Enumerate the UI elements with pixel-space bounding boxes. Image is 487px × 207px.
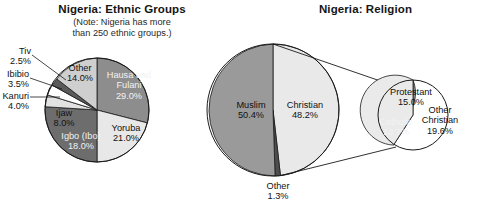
pie-label-christian: Christian 48.2% [277, 100, 333, 121]
pie-label-muslim-line-1: Muslim [225, 100, 277, 110]
pie-label-igbo-ibo-value: 18.0% [53, 141, 109, 151]
pie-callout-tiv-value: 2.5% [0, 56, 31, 66]
religion-chart: Nigeria: Religion M [244, 0, 487, 207]
pie-callout-kanuri: Kanuri 4.0% [0, 91, 29, 112]
pie-label-other-religion-outside: Other 1.3% [254, 181, 302, 202]
pie-label-other: Other 14.0% [58, 63, 102, 84]
pie-label-igbo-ibo-line-1: Igbo (Ibo) [53, 131, 109, 141]
detail-label-catholic: Catholic 13.7% [372, 117, 420, 138]
pie-label-other-religion-line-1: Other [254, 181, 302, 191]
pie-label-christian-line-1: Christian [277, 100, 333, 110]
detail-label-catholic-line-1: Catholic [372, 117, 420, 127]
pie-callout-tiv-line-1: Tiv [0, 46, 31, 56]
pie-label-ijaw-value: 8.0% [44, 118, 84, 128]
pie-label-christian-value: 48.2% [277, 110, 333, 120]
pie-callout-ibibio-value: 3.5% [0, 79, 29, 89]
pie-callout-ibibio-line-1: Ibibio [0, 69, 29, 79]
pie-callout-tiv: Tiv 2.5% [0, 46, 31, 67]
detail-label-protestant-line-1: Protestant [381, 87, 441, 97]
pie-label-other-religion-value: 1.3% [254, 191, 302, 201]
pie-label-muslim-value: 50.4% [225, 110, 277, 120]
pie-label-other-value: 14.0% [58, 73, 102, 83]
pie-label-hausa-and-fulani-line-2: Fulani [98, 80, 160, 90]
pie-callout-ibibio: Ibibio 3.5% [0, 69, 29, 90]
pie-label-igbo-ibo: Igbo (Ibo) 18.0% [53, 131, 109, 152]
pie-label-ijaw: Ijaw 8.0% [44, 108, 84, 129]
detail-label-catholic-value: 13.7% [372, 127, 420, 137]
detail-label-other-christian: Other Christian 19.6% [416, 105, 464, 136]
pie-label-ijaw-line-1: Ijaw [44, 108, 84, 118]
detail-label-other-christian-value: 19.6% [416, 126, 464, 136]
pie-label-hausa-and-fulani: Hausa and Fulani 29.0% [98, 70, 160, 101]
figure-root: Nigeria: Ethnic Groups (Note: Nigeria ha… [0, 0, 487, 207]
pie-label-hausa-and-fulani-line-1: Hausa and [98, 70, 160, 80]
pie-label-hausa-and-fulani-value: 29.0% [98, 91, 160, 101]
pie-label-muslim: Muslim 50.4% [225, 100, 277, 121]
detail-label-other-christian-line-2: Christian [416, 115, 464, 125]
pie-callout-kanuri-line-1: Kanuri [0, 91, 29, 101]
detail-label-other-christian-line-1: Other [416, 105, 464, 115]
pie-label-other-line-1: Other [58, 63, 102, 73]
pie-callout-kanuri-value: 4.0% [0, 101, 29, 111]
